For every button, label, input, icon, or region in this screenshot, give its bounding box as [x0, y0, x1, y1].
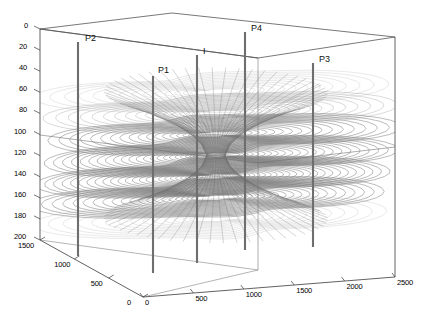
x-tick-2000: 2000 [347, 282, 363, 291]
x-tick-0: 0 [145, 298, 149, 307]
plot-svg [0, 0, 432, 324]
well-label-P2: P2 [85, 33, 96, 43]
z-tick-80: 80 [19, 105, 27, 114]
x-tick-1000: 1000 [246, 290, 262, 299]
well-label-P1: P1 [158, 65, 169, 75]
z-tick-0: 0 [24, 21, 28, 30]
contour-field [30, 70, 401, 239]
well-label-I: I [203, 46, 206, 56]
x-tick-500: 500 [195, 294, 207, 303]
z-tick-200: 200 [14, 232, 26, 241]
y-tick-0: 0 [127, 298, 131, 307]
figure-canvas: 020406080100120140160180200 150010005000… [0, 0, 432, 324]
z-axis-ticks [34, 26, 40, 240]
y-tick-500: 500 [91, 279, 103, 288]
z-tick-120: 120 [14, 148, 26, 157]
z-tick-180: 180 [14, 211, 26, 220]
z-tick-160: 160 [14, 190, 26, 199]
z-tick-140: 140 [14, 169, 26, 178]
z-tick-40: 40 [19, 63, 27, 72]
x-tick-1500: 1500 [296, 286, 312, 295]
z-tick-60: 60 [19, 84, 27, 93]
y-tick-1000: 1000 [54, 260, 70, 269]
well-label-P4: P4 [251, 23, 262, 33]
z-tick-100: 100 [14, 127, 26, 136]
x-tick-2500: 2500 [397, 278, 413, 287]
z-tick-20: 20 [19, 42, 27, 51]
well-label-P3: P3 [319, 54, 330, 64]
y-tick-1500: 1500 [18, 241, 34, 250]
